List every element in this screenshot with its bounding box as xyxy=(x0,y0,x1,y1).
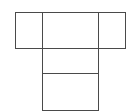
left-face xyxy=(15,12,43,49)
middle-face xyxy=(42,48,99,74)
bottom-face xyxy=(42,73,99,111)
top-center-face xyxy=(42,12,99,49)
right-face xyxy=(98,12,126,49)
